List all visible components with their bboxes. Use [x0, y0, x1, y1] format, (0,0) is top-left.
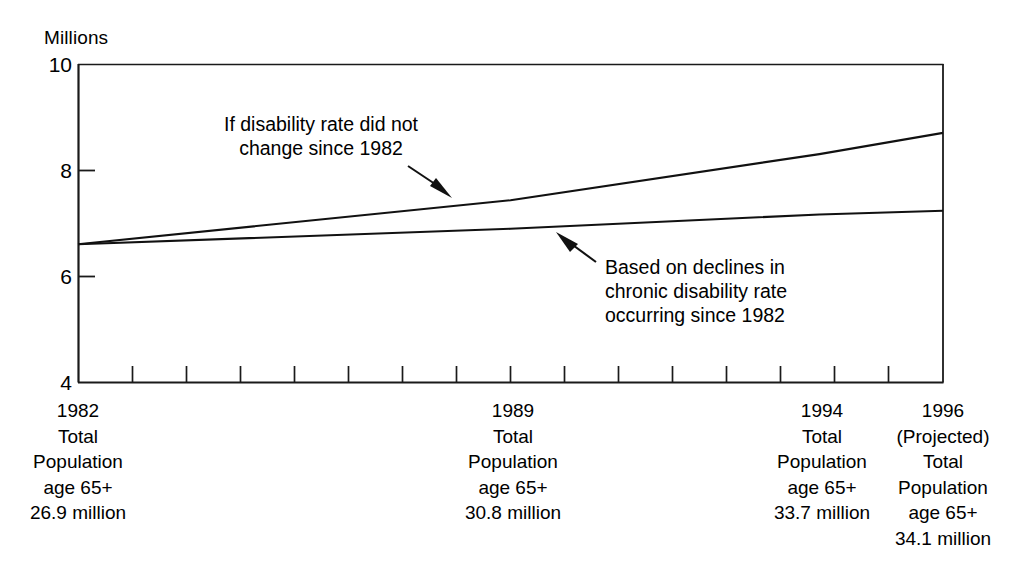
x-category-label-1994: 1994 Total Population age 65+ 33.7 milli…: [752, 398, 892, 526]
arrow-head: [556, 232, 578, 252]
y-axis-ticks: [79, 171, 95, 277]
x-label-line: (Projected): [873, 424, 1013, 450]
annotation-upper-series: If disability rate did not change since …: [196, 112, 446, 160]
x-label-line: Population: [8, 449, 148, 475]
x-label-line: Total: [443, 424, 583, 450]
x-label-value: 26.9 million: [8, 500, 148, 526]
x-label-year: 1989: [443, 398, 583, 424]
annotation-lower-series: Based on declines in chronic disability …: [605, 255, 905, 327]
annotation-upper-line-1: If disability rate did not: [196, 112, 446, 136]
annotation-arrow-lower: [556, 232, 596, 262]
annotation-lower-line-1: Based on declines in: [605, 255, 905, 279]
x-label-line: Total: [752, 424, 892, 450]
x-label-line: Population: [873, 475, 1013, 501]
x-label-line: Total: [8, 424, 148, 450]
annotation-lower-line-2: chronic disability rate: [605, 279, 905, 303]
x-axis-ticks: [133, 366, 889, 382]
x-category-label-1982: 1982 Total Population age 65+ 26.9 milli…: [8, 398, 148, 526]
x-label-line: age 65+: [443, 475, 583, 501]
x-label-line: Population: [752, 449, 892, 475]
x-label-year: 1996: [873, 398, 1013, 424]
x-label-line: age 65+: [873, 500, 1013, 526]
x-category-label-1996: 1996 (Projected) Total Population age 65…: [873, 398, 1013, 551]
chart-figure: Millions 10 8 6 4: [0, 0, 1018, 578]
annotation-upper-line-2: change since 1982: [196, 136, 446, 160]
x-category-label-1989: 1989 Total Population age 65+ 30.8 milli…: [443, 398, 583, 526]
x-label-year: 1994: [752, 398, 892, 424]
x-label-line: age 65+: [752, 475, 892, 501]
x-label-line: Population: [443, 449, 583, 475]
series-line-declining-rate: [78, 211, 943, 244]
x-label-value: 33.7 million: [752, 500, 892, 526]
annotation-lower-line-3: occurring since 1982: [605, 303, 905, 327]
x-label-line: Total: [873, 449, 1013, 475]
x-label-year: 1982: [8, 398, 148, 424]
arrow-head: [430, 178, 452, 198]
annotation-arrow-upper: [408, 166, 452, 198]
x-label-value: 30.8 million: [443, 500, 583, 526]
x-label-value: 34.1 million: [873, 526, 1013, 552]
x-label-line: age 65+: [8, 475, 148, 501]
